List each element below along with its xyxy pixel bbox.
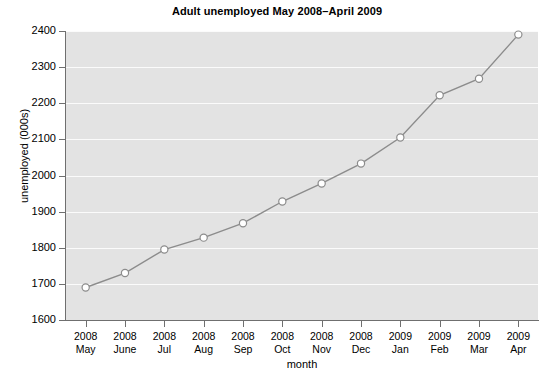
y-tick-mark: [59, 139, 66, 140]
y-tick-label: 1800: [10, 241, 56, 253]
x-tick-mark: [164, 321, 165, 327]
y-tick-label: 1700: [10, 277, 56, 289]
y-tick-mark: [59, 176, 66, 177]
y-tick-label: 2400: [10, 24, 56, 36]
gridline: [66, 176, 538, 177]
y-tick-mark: [59, 31, 66, 32]
x-axis-line: [65, 320, 539, 321]
y-axis-label: unemployed (000s): [18, 86, 30, 226]
x-tick-mark: [400, 321, 401, 327]
x-tick-mark: [125, 321, 126, 327]
x-tick-mark: [518, 321, 519, 327]
x-tick-label: 2009Apr: [493, 330, 543, 355]
x-tick-mark: [479, 321, 480, 327]
y-tick-label: 2100: [10, 132, 56, 144]
chart-title: Adult unemployed May 2008–April 2009: [0, 5, 554, 17]
x-tick-mark: [440, 321, 441, 327]
x-tick-mark: [282, 321, 283, 327]
x-tick-mark: [243, 321, 244, 327]
gridline: [66, 103, 538, 104]
x-axis-label: month: [66, 358, 538, 370]
y-tick-label: 1900: [10, 205, 56, 217]
gridline: [66, 67, 538, 68]
gridline: [66, 248, 538, 249]
line-chart: Adult unemployed May 2008–April 2009 160…: [0, 0, 554, 376]
gridline: [66, 284, 538, 285]
y-tick-mark: [59, 212, 66, 213]
gridline: [66, 31, 538, 32]
x-tick-label-year: 2009: [493, 330, 543, 343]
y-tick-mark: [59, 67, 66, 68]
x-tick-label-month: Apr: [493, 343, 543, 356]
y-tick-label: 2200: [10, 96, 56, 108]
y-tick-label: 2000: [10, 169, 56, 181]
y-tick-mark: [59, 320, 66, 321]
x-tick-mark: [361, 321, 362, 327]
gridline: [66, 139, 538, 140]
x-tick-mark: [322, 321, 323, 327]
x-tick-mark: [204, 321, 205, 327]
y-tick-label: 2300: [10, 60, 56, 72]
gridline: [66, 212, 538, 213]
x-tick-mark: [86, 321, 87, 327]
y-tick-mark: [59, 284, 66, 285]
plot-area: [66, 31, 538, 320]
y-tick-mark: [59, 103, 66, 104]
y-tick-label: 1600: [10, 313, 56, 325]
y-tick-mark: [59, 248, 66, 249]
